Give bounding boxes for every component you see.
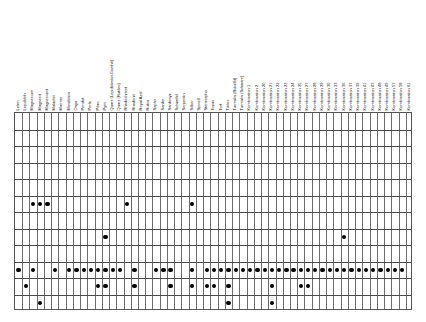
matrix-dot: [67, 268, 71, 272]
matrix-dot: [154, 268, 158, 272]
column-label: Quarz (Rutilen): [117, 83, 121, 110]
grid-column-line: [102, 113, 103, 309]
grid-column-line: [283, 113, 284, 309]
matrix-dot: [270, 268, 274, 272]
matrix-dot: [270, 284, 274, 288]
column-label: Rhodochrosit: [124, 86, 128, 110]
column-label: Sarder: [160, 98, 164, 110]
grid-column-line: [138, 113, 139, 309]
column-label: Kombination 25: [298, 82, 302, 110]
matrix-dot: [234, 268, 238, 272]
matrix-dot: [190, 284, 194, 288]
matrix-dot: [190, 268, 194, 272]
column-label: Kombination 27: [305, 82, 309, 110]
matrix-dot: [31, 202, 35, 206]
column-label: Pilan: [95, 101, 99, 110]
matrix-dot: [125, 202, 129, 206]
grid-column-line: [29, 113, 30, 309]
grid-column-line: [160, 113, 161, 309]
matrix-dot: [38, 202, 42, 206]
grid-column-line: [87, 113, 88, 309]
matrix-dot: [255, 268, 259, 272]
grid-column-line: [268, 113, 269, 309]
matrix-dot: [226, 301, 230, 305]
matrix-dot: [248, 268, 252, 272]
grid-column-line: [44, 113, 45, 309]
column-label: Lehm: [16, 100, 20, 110]
column-label: Türkis: [225, 99, 229, 110]
grid-column-line: [225, 113, 226, 309]
grid-column-line: [319, 113, 320, 309]
matrix-dot: [132, 284, 136, 288]
grid-column-line: [203, 113, 204, 309]
matrix-dot: [357, 268, 361, 272]
grid-row-line: [15, 245, 411, 246]
matrix-dot: [386, 268, 390, 272]
grid-row-line: [15, 196, 411, 197]
grid-column-line: [66, 113, 67, 309]
column-label: Magnesiusit: [44, 89, 48, 110]
matrix-dot: [96, 284, 100, 288]
column-label: Kombination 37: [348, 82, 352, 110]
grid-row-line: [15, 262, 411, 263]
grid-column-line: [73, 113, 74, 309]
matrix-dot: [212, 284, 216, 288]
matrix-dot: [277, 268, 281, 272]
grid-column-line: [348, 113, 349, 309]
grid-row-line: [15, 179, 411, 180]
grid-column-line: [196, 113, 197, 309]
matrix-dot: [306, 268, 310, 272]
grid-column-line: [384, 113, 385, 309]
column-label: Magnesium: [30, 89, 34, 110]
grid-column-line: [399, 113, 400, 309]
matrix-dot: [320, 268, 324, 272]
column-label: Mondstein: [66, 92, 70, 110]
grid-column-line: [370, 113, 371, 309]
matrix-dot: [335, 268, 339, 272]
column-label: Malachit: [52, 95, 56, 110]
matrix-dot: [103, 235, 107, 239]
grid-column-line: [80, 113, 81, 309]
column-label: Kombination 57: [392, 82, 396, 110]
matrix-dot: [400, 268, 404, 272]
matrix-dot: [299, 268, 303, 272]
column-label: Kombination 21: [269, 82, 273, 110]
column-label: Saphir: [153, 98, 157, 110]
grid-row-line: [15, 278, 411, 279]
presence-matrix-chart: LehmLepidolithMagnesiumMagnesitMagnesius…: [0, 0, 426, 322]
grid-column-line: [116, 113, 117, 309]
grid-column-line: [145, 113, 146, 309]
matrix-dot: [16, 268, 20, 272]
matrix-dot: [190, 202, 194, 206]
grid-column-line: [297, 113, 298, 309]
column-label: Serpentin: [182, 93, 186, 110]
column-label: Kombination 30: [327, 82, 331, 110]
grid-column-line: [341, 113, 342, 309]
grid-column-line: [109, 113, 110, 309]
column-label: Kombination 36: [341, 82, 345, 110]
matrix-dot: [205, 284, 209, 288]
grid-column-line: [22, 113, 23, 309]
column-label: Kombination 20: [262, 82, 266, 110]
column-label: Kombination 49: [385, 82, 389, 110]
column-label: Kombination 22: [276, 82, 280, 110]
column-label: Kombination 1: [247, 84, 251, 110]
matrix-dot: [284, 268, 288, 272]
matrix-dot: [53, 268, 57, 272]
matrix-dot: [342, 268, 346, 272]
grid-column-line: [261, 113, 262, 309]
column-label: Onyx: [73, 101, 77, 110]
column-label: Kombination 61: [406, 82, 410, 110]
grid-column-line: [167, 113, 168, 309]
column-label: Kombination 39: [356, 82, 360, 110]
grid-column-line: [355, 113, 356, 309]
grid-column-line: [377, 113, 378, 309]
column-label: Kombination 41: [363, 82, 367, 110]
column-label: Kombination 23: [283, 82, 287, 110]
matrix-dot: [226, 284, 230, 288]
column-label: Silber: [189, 100, 193, 110]
matrix-dot: [299, 284, 303, 288]
matrix-dot: [226, 268, 230, 272]
matrix-dot: [45, 202, 49, 206]
matrix-dot: [111, 268, 115, 272]
